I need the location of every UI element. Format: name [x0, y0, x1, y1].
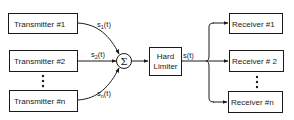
receiver-n-label: Receiver #n — [231, 98, 274, 107]
signal-label-2: s2(t) — [91, 50, 105, 60]
output-signal-label: s(t) — [183, 51, 194, 60]
transmitter-1-label: Transmitter #1 — [14, 20, 66, 29]
receiver-n-block: Receiver #n — [229, 92, 283, 113]
transmitter-2-block: Transmitter #2 — [10, 51, 78, 72]
receiver-2-block: Receiver # 2 — [230, 51, 284, 72]
receiver-1-block: Receiver #1 — [230, 14, 283, 34]
receiver-ellipsis-icon — [256, 76, 258, 88]
transmitter-1-block: Transmitter #1 — [9, 14, 78, 34]
limiter-label-line1: Hard — [157, 52, 174, 61]
sigma-icon: Σ — [120, 56, 127, 67]
transmitter-n-block: Transmitter #n — [10, 91, 78, 112]
branch-path — [206, 23, 214, 61]
receiver-1-label: Receiver #1 — [232, 20, 275, 29]
hard-limiter-block: Hard Limiter — [150, 48, 182, 76]
summer-block: Σ — [117, 54, 132, 69]
signal-label-n: sn(t) — [97, 89, 111, 99]
branch-path-bottom — [206, 61, 214, 102]
receiver-2-label: Receiver # 2 — [232, 57, 277, 66]
transmitter-n-label: Transmitter #n — [14, 97, 65, 106]
signal-label-1: s1(t) — [97, 20, 111, 30]
transmitter-2-label: Transmitter #2 — [14, 57, 66, 66]
block-diagram: Transmitter #1 Transmitter #2 Transmitte… — [0, 0, 294, 120]
limiter-label-line2: Limiter — [153, 62, 177, 71]
transmitter-ellipsis-icon — [42, 75, 44, 87]
